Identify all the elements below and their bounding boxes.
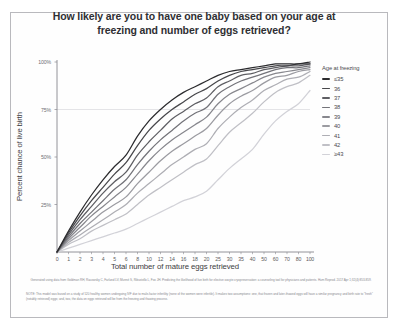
legend-swatch-icon <box>322 135 330 137</box>
x-tick-label: 100 <box>303 256 317 262</box>
x-axis-title: Total number of mature eggs retrieved <box>60 262 290 271</box>
legend-item-label: 41 <box>334 133 340 139</box>
legend-item-≥43[interactable]: ≥43 <box>322 150 384 159</box>
legend-swatch-icon <box>322 78 330 80</box>
legend-swatch-icon <box>322 116 330 118</box>
legend-item-38[interactable]: 38 <box>322 103 384 112</box>
legend-item-41[interactable]: 41 <box>322 131 384 140</box>
chart-canvas <box>0 0 401 333</box>
citation-text: Generated using data from Goldman RH, Ra… <box>26 278 376 283</box>
legend-title: Age at freezing <box>322 65 384 71</box>
footnote-text: NOTE: This model was based on a study of… <box>26 292 378 301</box>
legend-item-42[interactable]: 42 <box>322 140 384 149</box>
chart-plot-area: 100%75%50%25% 01234568101214161820253035… <box>0 0 401 333</box>
legend-swatch-icon <box>322 97 330 99</box>
legend-item-37[interactable]: 37 <box>322 93 384 102</box>
legend-item-label: ≤35 <box>334 76 343 82</box>
legend: Age at freezing ≤3536373839404142≥43 <box>322 65 384 159</box>
legend-item-40[interactable]: 40 <box>322 121 384 130</box>
legend-items: ≤3536373839404142≥43 <box>322 75 384 160</box>
legend-item-39[interactable]: 39 <box>322 112 384 121</box>
legend-item-≤35[interactable]: ≤35 <box>322 75 384 84</box>
y-tick-label: 100% <box>33 59 51 65</box>
legend-item-label: ≥43 <box>334 151 343 157</box>
y-tick-label: 75% <box>33 107 51 113</box>
y-tick-label: 50% <box>33 154 51 160</box>
legend-swatch-icon <box>322 154 330 156</box>
y-axis-title: Percent chance of live birth <box>15 102 24 212</box>
legend-item-label: 42 <box>334 142 340 148</box>
legend-item-label: 38 <box>334 104 340 110</box>
series-line-≥43 <box>57 91 310 253</box>
legend-item-label: 40 <box>334 123 340 129</box>
legend-swatch-icon <box>322 125 330 127</box>
y-tick-label: 25% <box>33 202 51 208</box>
legend-item-36[interactable]: 36 <box>322 84 384 93</box>
legend-swatch-icon <box>322 144 330 146</box>
legend-item-label: 36 <box>334 86 340 92</box>
series-line-41 <box>57 72 310 253</box>
legend-item-label: 39 <box>334 114 340 120</box>
legend-swatch-icon <box>322 88 330 90</box>
series-line-38 <box>57 66 310 252</box>
legend-item-label: 37 <box>334 95 340 101</box>
legend-swatch-icon <box>322 107 330 109</box>
